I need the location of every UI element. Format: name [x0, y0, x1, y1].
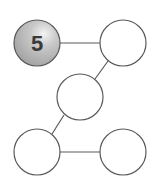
- edge-n3-n4: [52, 115, 64, 134]
- node-n1[interactable]: 5: [14, 20, 60, 66]
- node-n3[interactable]: [57, 74, 103, 120]
- node-n4[interactable]: [14, 129, 60, 175]
- node-n5[interactable]: [100, 129, 146, 175]
- node-label: 5: [31, 31, 43, 56]
- number-path-diagram: 5: [0, 0, 156, 189]
- edge-n2-n3: [95, 61, 108, 79]
- node-n2[interactable]: [100, 20, 146, 66]
